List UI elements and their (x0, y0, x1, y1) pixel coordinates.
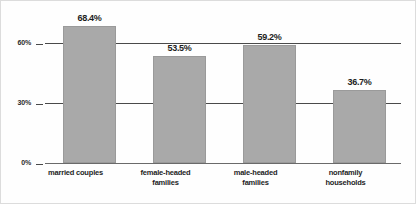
bar-value-married-couples: 68.4% (63, 13, 116, 23)
category-label-married-couples: married couples (33, 168, 118, 178)
tick-mark-0 (36, 164, 43, 165)
category-label-line: households (303, 178, 388, 188)
tick-mark-60 (36, 44, 43, 45)
category-label-line: nonfamily (303, 168, 388, 178)
bar-nonfamily-households[interactable] (333, 90, 386, 163)
tick-mark-30 (36, 104, 43, 105)
gridline-0-baseline (45, 163, 401, 164)
bar-value-nonfamily-households: 36.7% (333, 77, 386, 87)
bar-female-headed-families[interactable] (153, 56, 206, 163)
y-axis-label-30: 30% (0, 99, 31, 106)
bar-male-headed-families[interactable] (243, 45, 296, 163)
y-axis-label-60: 60% (0, 39, 31, 46)
category-label-line: male-headed (213, 168, 298, 178)
category-label-female-headed-families: female-headed families (123, 168, 208, 188)
bar-married-couples[interactable] (63, 26, 116, 163)
category-label-line: married couples (33, 168, 118, 178)
category-label-line: families (123, 178, 208, 188)
y-axis-label-0: 0% (0, 159, 31, 166)
category-label-nonfamily-households: nonfamily households (303, 168, 388, 188)
category-label-line: female-headed (123, 168, 208, 178)
bar-value-female-headed-families: 53.5% (153, 43, 206, 53)
bar-chart: 60% 30% 0% 68.4% 53.5% 59.2% 36.7% marri… (0, 0, 416, 204)
category-label-male-headed-families: male-headed families (213, 168, 298, 188)
category-label-line: families (213, 178, 298, 188)
plot-area: 60% 30% 0% 68.4% 53.5% 59.2% 36.7% (45, 17, 401, 163)
bar-value-male-headed-families: 59.2% (243, 32, 296, 42)
